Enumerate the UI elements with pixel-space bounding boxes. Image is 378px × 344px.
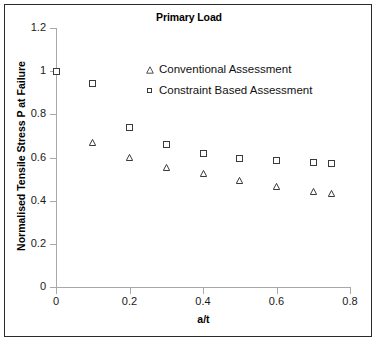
- chart-legend: Conventional AssessmentConstraint Based …: [144, 58, 364, 100]
- y-tick-label: 0: [16, 280, 46, 292]
- data-point: [163, 164, 170, 171]
- y-tick-label: 1.2: [16, 21, 46, 33]
- legend-label: Constraint Based Assessment: [159, 84, 312, 96]
- y-tick-label: 0.4: [16, 194, 46, 206]
- data-point: [89, 139, 96, 146]
- x-tick-label: 0.4: [183, 295, 223, 307]
- data-point: [53, 68, 60, 75]
- data-point: [236, 155, 243, 162]
- y-tick-label: 1: [16, 64, 46, 76]
- legend-entry: Constraint Based Assessment: [144, 79, 364, 100]
- x-tick-mark: [130, 288, 131, 294]
- x-tick-mark: [350, 288, 351, 294]
- data-point: [126, 154, 133, 161]
- scatter-chart: Primary Load Normalised Tensile Stress P…: [0, 0, 378, 344]
- square-open-icon: [144, 84, 156, 96]
- data-point: [89, 80, 96, 87]
- data-point: [163, 141, 170, 148]
- data-point: [310, 188, 317, 195]
- x-axis-title: a/t: [56, 313, 351, 325]
- x-tick-mark: [56, 288, 57, 294]
- data-point: [328, 190, 335, 197]
- data-point: [328, 160, 335, 167]
- y-tick-label: 0.8: [16, 107, 46, 119]
- data-point: [273, 183, 280, 190]
- y-tick-label: 0.2: [16, 237, 46, 249]
- data-point: [126, 124, 133, 131]
- data-point: [200, 150, 207, 157]
- data-point: [273, 157, 280, 164]
- y-tick-label: 0.6: [16, 151, 46, 163]
- x-tick-label: 0.8: [330, 295, 370, 307]
- data-point: [200, 170, 207, 177]
- x-tick-mark: [277, 288, 278, 294]
- data-point: [236, 177, 243, 184]
- legend-entry: Conventional Assessment: [144, 58, 364, 79]
- chart-title: Primary Load: [0, 11, 378, 23]
- legend-label: Conventional Assessment: [159, 63, 291, 75]
- triangle-open-icon: [144, 63, 156, 75]
- data-point: [310, 159, 317, 166]
- x-tick-label: 0: [36, 295, 76, 307]
- x-tick-mark: [203, 288, 204, 294]
- x-tick-label: 0.2: [110, 295, 150, 307]
- x-tick-label: 0.6: [257, 295, 297, 307]
